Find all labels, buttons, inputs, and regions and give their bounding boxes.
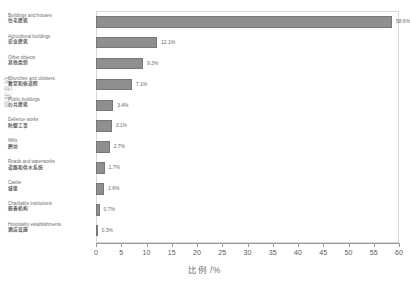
bar <box>96 100 113 112</box>
x-tick-label: 20 <box>193 249 201 256</box>
bar-value-label: 0.7% <box>104 206 115 212</box>
category-label: Mills磨坊 <box>8 138 96 149</box>
x-tick <box>121 243 122 247</box>
bar <box>96 141 110 153</box>
category-label: Other objects其他类别 <box>8 55 96 66</box>
bar-value-label: 58.6% <box>396 18 410 24</box>
bar-track: 1.7% <box>96 162 399 174</box>
category-label: Roads and waterworks道路和供水系统 <box>8 159 96 170</box>
x-tick <box>323 243 324 247</box>
category-label: Hospitality establishments酒店设施 <box>8 222 96 233</box>
bar-row: Roads and waterworks道路和供水系统1.7% <box>0 159 409 180</box>
bar-track: 2.7% <box>96 141 399 153</box>
x-tick-label: 0 <box>94 249 98 256</box>
category-label-zh: 磨坊 <box>8 144 96 150</box>
x-tick-label: 35 <box>269 249 277 256</box>
bar-track: 12.1% <box>96 37 399 49</box>
category-label-zh: 防御工事 <box>8 123 96 129</box>
x-tick-label: 10 <box>143 249 151 256</box>
bar-value-label: 1.7% <box>109 164 120 170</box>
bar-track: 0.3% <box>96 225 399 237</box>
bar-row: Other objects其他类别9.3% <box>0 55 409 76</box>
x-tick-label: 55 <box>370 249 378 256</box>
category-label-zh: 住宅建筑 <box>8 18 96 24</box>
category-label-zh: 农业建筑 <box>8 39 96 45</box>
x-tick <box>273 243 274 247</box>
bar-row: Mills磨坊2.7% <box>0 138 409 159</box>
bar-track: 1.6% <box>96 183 399 195</box>
x-axis-title: 比例 /% <box>0 263 409 275</box>
x-tick <box>374 243 375 247</box>
bar-track: 9.3% <box>96 58 399 70</box>
bar-value-label: 1.6% <box>108 185 119 191</box>
x-tick <box>349 243 350 247</box>
x-tick-label: 50 <box>345 249 353 256</box>
category-label: Agricultural buildings农业建筑 <box>8 34 96 45</box>
bar-track: 3.1% <box>96 120 399 132</box>
bar-value-label: 0.3% <box>102 227 113 233</box>
category-label-zh: 慈善机构 <box>8 206 96 212</box>
category-label-zh: 城堡 <box>8 186 96 192</box>
bar-row: Defence works防御工事3.1% <box>0 117 409 138</box>
x-tick-label: 45 <box>319 249 327 256</box>
category-label-zh: 教堂和修道院 <box>8 81 96 87</box>
category-label: Buildings and houses住宅建筑 <box>8 13 96 24</box>
bar-rows: Buildings and houses住宅建筑58.6%Agricultura… <box>0 13 409 243</box>
bar-value-label: 3.4% <box>117 102 128 108</box>
x-tick-label: 15 <box>168 249 176 256</box>
bar-row: Agricultural buildings农业建筑12.1% <box>0 34 409 55</box>
x-tick-label: 30 <box>244 249 252 256</box>
bar-value-label: 2.7% <box>114 143 125 149</box>
bar <box>96 162 105 174</box>
x-tick <box>399 243 400 247</box>
category-label: Public buildings公共建筑 <box>8 97 96 108</box>
category-label-zh: 公共建筑 <box>8 102 96 108</box>
bar-track: 0.7% <box>96 204 399 216</box>
bar-row: Castle城堡1.6% <box>0 180 409 201</box>
bar <box>96 204 100 216</box>
category-label: Churches and cloisters教堂和修道院 <box>8 76 96 87</box>
bar <box>96 37 157 49</box>
bar-value-label: 7.1% <box>136 81 147 87</box>
x-tick <box>197 243 198 247</box>
bar-track: 58.6% <box>96 16 399 28</box>
x-tick-label: 40 <box>294 249 302 256</box>
category-label-zh: 酒店设施 <box>8 227 96 233</box>
bar-row: Buildings and houses住宅建筑58.6% <box>0 13 409 34</box>
x-tick <box>172 243 173 247</box>
bar-value-label: 9.3% <box>147 60 158 66</box>
bar-row: Churches and cloisters教堂和修道院7.1% <box>0 76 409 97</box>
bar <box>96 58 143 70</box>
bar-row: Public buildings公共建筑3.4% <box>0 97 409 118</box>
bar <box>96 183 104 195</box>
bar-row: Hospitality establishments酒店设施0.3% <box>0 222 409 243</box>
category-label: Castle城堡 <box>8 180 96 191</box>
x-tick-label: 60 <box>395 249 403 256</box>
category-label: Charitable institutions慈善机构 <box>8 201 96 212</box>
category-label-zh: 其他类别 <box>8 60 96 66</box>
x-tick <box>222 243 223 247</box>
x-tick <box>147 243 148 247</box>
category-label-zh: 道路和供水系统 <box>8 165 96 171</box>
bar <box>96 16 392 28</box>
bar-track: 3.4% <box>96 100 399 112</box>
bar <box>96 225 98 237</box>
bar-track: 7.1% <box>96 79 399 91</box>
x-tick <box>248 243 249 247</box>
bar-value-label: 3.1% <box>116 122 127 128</box>
x-tick <box>96 243 97 247</box>
category-label: Defence works防御工事 <box>8 117 96 128</box>
bar-row: Charitable institutions慈善机构0.7% <box>0 201 409 222</box>
bar-value-label: 12.1% <box>161 39 175 45</box>
x-tick <box>298 243 299 247</box>
bar <box>96 79 132 91</box>
x-tick-label: 5 <box>119 249 123 256</box>
bar <box>96 120 112 132</box>
x-tick-label: 25 <box>218 249 226 256</box>
